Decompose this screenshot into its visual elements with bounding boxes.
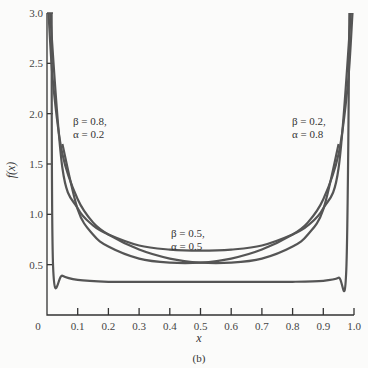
y-tick-label: 0.5 (29, 259, 43, 271)
x-tick-label: 0.2 (102, 320, 116, 332)
annotation-beta-0.5: β = 0.5, (171, 227, 205, 239)
x-tick-label: 1.0 (347, 320, 361, 332)
x-tick-label: 0.8 (286, 320, 300, 332)
y-tick-label: 2.0 (29, 108, 43, 120)
y-tick-label: 1.5 (29, 158, 43, 170)
x-tick-label: 0.6 (224, 320, 238, 332)
x-axis-title: x (195, 331, 202, 345)
y-tick-label: 3.0 (29, 7, 43, 19)
annotation-beta-0.8: β = 0.8, (73, 115, 107, 127)
y-axis-title: f(x) (4, 162, 18, 179)
x-tick-label: 0.7 (255, 320, 269, 332)
axes (47, 13, 354, 315)
x-tick-label: 0 (35, 320, 41, 332)
y-tick-label: 1.0 (29, 208, 43, 220)
x-tick-label: 0.1 (71, 320, 85, 332)
annotation-beta-0.2: β = 0.2, (292, 115, 326, 127)
y-tick-label: 2.5 (29, 57, 43, 69)
beta-density-chart: 00.10.20.30.40.50.60.70.80.91.0 0.51.01.… (0, 0, 368, 368)
annotation-alpha-0.8: α = 0.8 (292, 128, 324, 140)
figure-caption: (b) (193, 352, 206, 365)
x-tick-label: 0.9 (316, 320, 330, 332)
annotation-alpha-0.5: α = 0.5 (171, 240, 203, 252)
annotation-alpha-0.2: α = 0.2 (73, 128, 104, 140)
x-axis-ticks: 00.10.20.30.40.50.60.70.80.91.0 (35, 308, 361, 332)
x-tick-label: 0.3 (132, 320, 146, 332)
x-tick-label: 0.4 (163, 320, 177, 332)
